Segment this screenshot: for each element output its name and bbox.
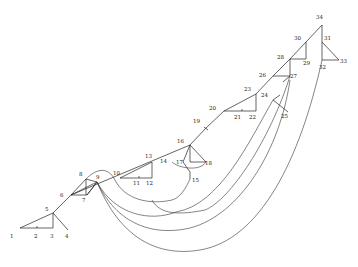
- node-label-30: 30: [294, 35, 301, 41]
- dependency-tree-diagram: 1234567891011121314151617181920212223242…: [0, 0, 358, 267]
- node-label-14: 14: [160, 158, 167, 164]
- node-label-5: 5: [45, 206, 49, 212]
- node-label-27: 27: [290, 73, 297, 79]
- node-label-7: 7: [82, 197, 86, 203]
- node-label-8: 8: [79, 171, 83, 177]
- node-label-22: 22: [249, 114, 256, 120]
- node-label-28: 28: [277, 54, 284, 60]
- node-label-17: 17: [176, 159, 183, 165]
- node-label-34: 34: [316, 14, 323, 20]
- node-label-16: 16: [177, 138, 184, 144]
- node-label-20: 20: [209, 105, 216, 111]
- node-label-6: 6: [60, 192, 64, 198]
- node-label-3: 3: [50, 233, 54, 239]
- node-label-18: 18: [205, 160, 212, 166]
- node-label-24: 24: [261, 92, 268, 98]
- node-label-23: 23: [244, 86, 251, 92]
- node-label-31: 31: [324, 35, 331, 41]
- node-label-29: 29: [303, 60, 310, 66]
- node-label-10: 10: [113, 170, 120, 176]
- node-label-21: 21: [234, 114, 241, 120]
- node-label-32: 32: [319, 64, 326, 70]
- node-label-12: 12: [146, 180, 153, 186]
- node-label-2: 2: [34, 233, 38, 239]
- node-label-9: 9: [96, 174, 100, 180]
- node-label-1: 1: [10, 233, 14, 239]
- node-label-26: 26: [259, 72, 266, 78]
- node-label-33: 33: [340, 58, 347, 64]
- node-label-19: 19: [193, 118, 200, 124]
- node-label-4: 4: [65, 233, 69, 239]
- node-label-15: 15: [192, 177, 199, 183]
- node-label-13: 13: [145, 153, 152, 159]
- node-label-11: 11: [133, 180, 140, 186]
- arc-edges: [86, 60, 322, 251]
- tree-edges: [20, 25, 339, 230]
- node-label-25: 25: [281, 113, 288, 119]
